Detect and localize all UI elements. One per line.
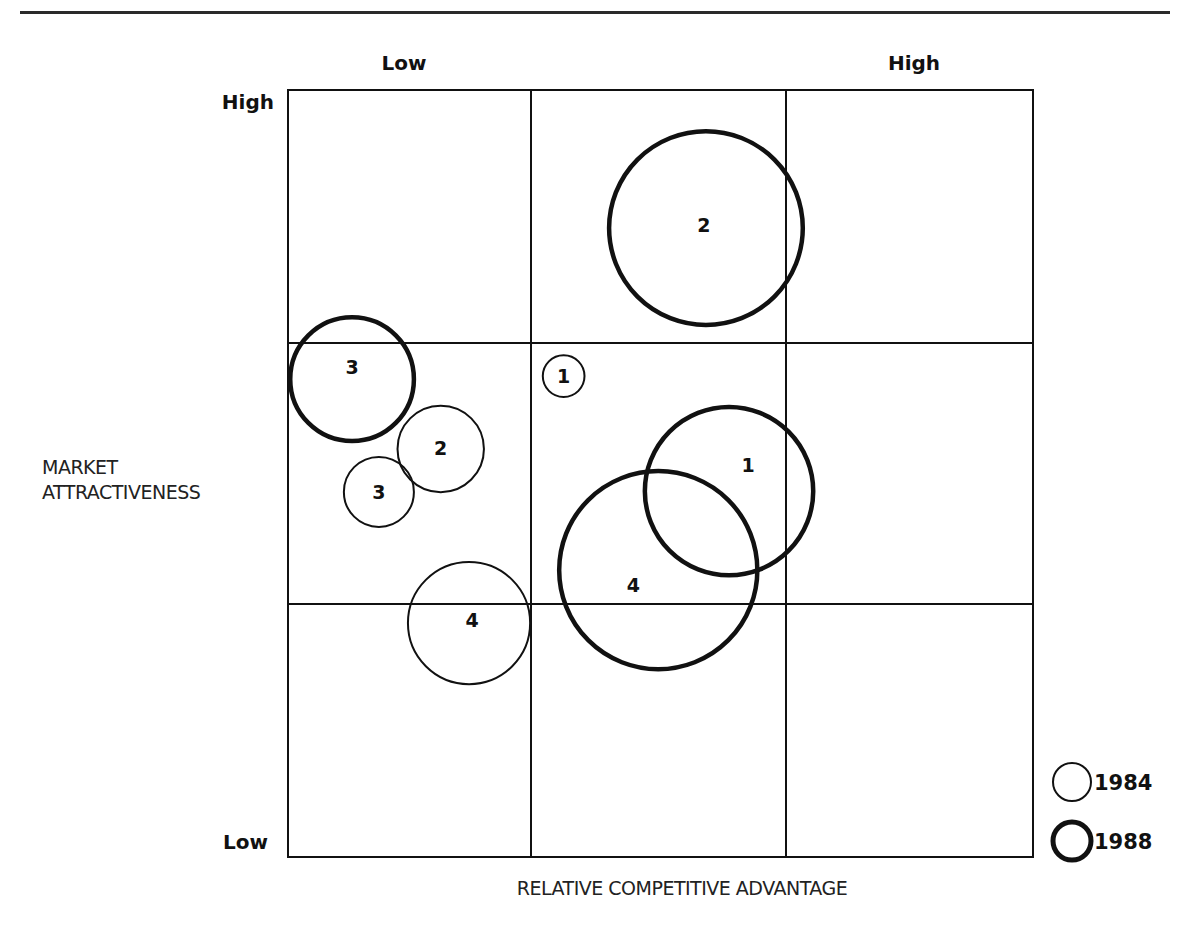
grid	[288, 90, 1033, 857]
bubble-1988-3	[290, 317, 414, 441]
bubble-label-1988-1: 1	[741, 454, 754, 476]
bubbles: 12341234	[290, 131, 813, 684]
x-tick-low: Low	[382, 51, 427, 75]
x-tick-high: High	[888, 51, 940, 75]
bubble-label-1984-1: 1	[557, 365, 570, 387]
bubble-1988-1	[645, 407, 813, 575]
bubble-matrix-chart: Low High High Low MARKET ATTRACTIVENESS …	[0, 0, 1195, 929]
bubble-label-1988-2: 2	[697, 214, 710, 236]
legend-marker-1988	[1053, 822, 1091, 860]
bubble-label-1984-2: 2	[434, 437, 447, 459]
y-axis-label-line1: MARKET	[42, 456, 119, 478]
bubble-label-1984-3: 3	[372, 481, 385, 503]
grid-frame	[288, 90, 1033, 857]
bubble-label-1984-4: 4	[465, 609, 478, 631]
y-axis-label-line2: ATTRACTIVENESS	[42, 481, 200, 503]
legend-marker-1984	[1053, 763, 1091, 801]
legend-label-1988: 1988	[1094, 830, 1152, 854]
legend-label-1984: 1984	[1094, 771, 1152, 795]
legend: 19841988	[1053, 763, 1152, 860]
x-axis-label: RELATIVE COMPETITIVE ADVANTAGE	[517, 877, 847, 899]
bubble-label-1988-4: 4	[627, 574, 640, 596]
y-tick-high: High	[222, 90, 274, 114]
bubble-label-1988-3: 3	[345, 356, 358, 378]
y-tick-low: Low	[223, 830, 268, 854]
bubble-1988-4	[559, 471, 757, 669]
